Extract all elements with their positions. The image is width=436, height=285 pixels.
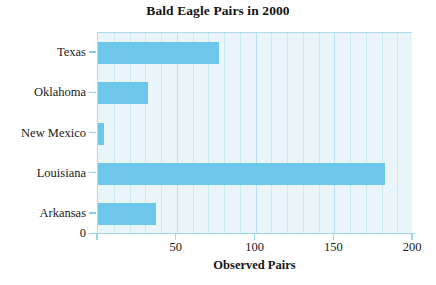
y-axis-tick xyxy=(89,172,96,173)
bar xyxy=(98,42,219,64)
bar xyxy=(98,123,104,145)
y-axis-label-new-mexico: New Mexico xyxy=(0,126,86,140)
x-axis-origin-label: 0 xyxy=(60,226,86,241)
y-axis-label-louisiana: Louisiana xyxy=(0,166,86,180)
x-axis-label-50: 50 xyxy=(151,240,201,255)
y-axis-tick xyxy=(89,132,96,133)
x-axis-title: Observed Pairs xyxy=(97,258,412,273)
x-axis-tick xyxy=(96,233,97,240)
x-axis-label-100: 100 xyxy=(230,240,280,255)
x-axis-tick xyxy=(175,233,176,240)
y-axis-label-texas: Texas xyxy=(0,45,86,59)
y-axis-tick xyxy=(89,212,96,213)
chart-title: Bald Eagle Pairs in 2000 xyxy=(0,3,436,19)
y-axis-label-oklahoma: Oklahoma xyxy=(0,85,86,99)
bar-chart: Bald Eagle Pairs in 2000 TexasOklahomaNe… xyxy=(0,0,436,285)
bars-layer xyxy=(98,33,412,233)
bar xyxy=(98,82,148,104)
y-axis-tick xyxy=(89,92,96,93)
plot-area xyxy=(97,32,412,233)
bar xyxy=(98,163,385,185)
x-axis-line xyxy=(89,233,415,234)
x-axis-tick xyxy=(333,233,334,240)
x-axis-label-150: 150 xyxy=(308,240,358,255)
x-axis-tick xyxy=(411,233,412,240)
x-axis-tick xyxy=(254,233,255,240)
bar xyxy=(98,203,156,225)
y-axis-tick xyxy=(89,51,96,52)
x-axis-label-200: 200 xyxy=(387,240,436,255)
y-axis-label-arkansas: Arkansas xyxy=(0,206,86,220)
